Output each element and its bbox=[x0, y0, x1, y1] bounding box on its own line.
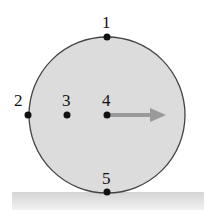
point-3 bbox=[64, 112, 71, 119]
label-2: 2 bbox=[14, 91, 23, 110]
rolling-wheel-diagram: 1 2 3 4 5 bbox=[0, 0, 207, 221]
label-1: 1 bbox=[102, 13, 111, 32]
point-4 bbox=[104, 112, 111, 119]
label-4: 4 bbox=[102, 91, 111, 110]
label-3: 3 bbox=[62, 91, 71, 110]
point-5 bbox=[104, 189, 111, 196]
point-1 bbox=[104, 34, 111, 41]
label-5: 5 bbox=[102, 169, 111, 188]
point-2 bbox=[25, 112, 32, 119]
